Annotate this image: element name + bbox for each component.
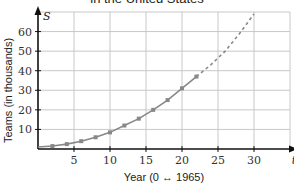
x-tick-label: 25 xyxy=(211,154,225,167)
data-point-marker xyxy=(151,108,155,112)
y-tick-label: 60 xyxy=(18,26,32,39)
y-tick-label: 10 xyxy=(18,123,32,136)
x-tick-label: 15 xyxy=(139,154,153,167)
extrapolated-curve xyxy=(196,14,254,77)
data-point-marker xyxy=(166,98,170,102)
data-point-marker xyxy=(180,86,184,90)
observed-curve xyxy=(38,77,196,147)
y-axis-arrow-icon xyxy=(35,6,42,15)
y-tick-label: 50 xyxy=(18,45,32,58)
data-point-marker xyxy=(50,144,54,148)
x-tick-label: 5 xyxy=(71,154,78,167)
y-axis-label: Teams (in thousands) xyxy=(2,38,14,143)
data-point-marker xyxy=(108,130,112,134)
x-tick-label: 20 xyxy=(175,154,189,167)
x-variable-label: t xyxy=(292,154,294,167)
data-point-marker xyxy=(137,117,141,121)
y-tick-label: 40 xyxy=(18,65,32,78)
data-point-marker xyxy=(122,124,126,128)
x-tick-label: 30 xyxy=(247,154,261,167)
y-tick-label: 20 xyxy=(18,104,32,117)
data-point-marker xyxy=(65,142,69,146)
x-axis-arrow-icon xyxy=(289,146,294,153)
data-point-marker xyxy=(94,135,98,139)
data-point-marker xyxy=(79,139,83,143)
chart: 51015202530102030405060tSYear (0 ↔ 1965)… xyxy=(0,0,294,186)
x-tick-label: 10 xyxy=(103,154,117,167)
y-tick-label: 30 xyxy=(18,84,32,97)
y-variable-label: S xyxy=(43,10,51,23)
x-axis-label: Year (0 ↔ 1965) xyxy=(124,171,204,183)
